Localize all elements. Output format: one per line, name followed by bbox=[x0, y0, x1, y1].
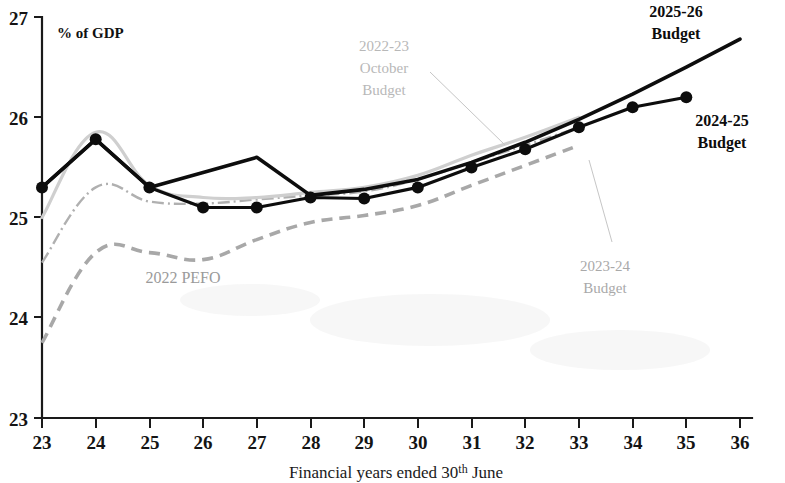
y-tick-label: 25 bbox=[9, 208, 28, 229]
annotation-line-2: October bbox=[360, 60, 408, 76]
x-tick-label: 23 bbox=[33, 432, 52, 453]
data-point-marker bbox=[412, 181, 424, 193]
y-tick-label: 27 bbox=[9, 8, 29, 29]
x-tick-label: 32 bbox=[516, 432, 535, 453]
annotation-line-1: 2022-23 bbox=[359, 38, 409, 54]
annotation-2022-pefo: 2022 PEFO bbox=[145, 269, 220, 286]
data-point-marker bbox=[573, 121, 585, 133]
annotation-line-2: Budget bbox=[652, 25, 702, 43]
x-axis-title-superscript: th bbox=[458, 462, 467, 476]
data-point-marker bbox=[36, 181, 48, 193]
annotation-2024-25-budget: 2024-25 Budget bbox=[695, 112, 748, 152]
x-tick-label: 36 bbox=[731, 432, 750, 453]
annotation-line-1: 2025-26 bbox=[649, 3, 702, 20]
unit-label: % of GDP bbox=[57, 25, 124, 41]
x-tick-label: 24 bbox=[87, 432, 107, 453]
annotation-line-1: 2022 PEFO bbox=[145, 269, 220, 286]
annotation-leaders bbox=[430, 72, 612, 242]
annotation-2025-26-budget: 2025-26 Budget bbox=[649, 3, 702, 43]
data-point-marker bbox=[305, 192, 317, 204]
data-point-marker bbox=[90, 133, 102, 145]
annotation-line-3: Budget bbox=[362, 82, 406, 98]
x-axis-ticks bbox=[42, 418, 740, 428]
scan-artifacts bbox=[180, 284, 710, 370]
x-tick-label: 34 bbox=[624, 432, 644, 453]
annotation-line-1: 2024-25 bbox=[695, 112, 748, 129]
line-chart-svg: 27 26 25 24 23 23 24 25 26 27 28 29 30 3… bbox=[0, 0, 785, 483]
x-tick-label: 26 bbox=[194, 432, 213, 453]
annotation-line-2: Budget bbox=[698, 134, 748, 152]
data-point-marker bbox=[143, 181, 155, 193]
annotation-line-2: Budget bbox=[583, 280, 627, 296]
x-axis-title: Financial years ended 30th June bbox=[289, 462, 503, 482]
x-axis-title-main: Financial years ended 30 bbox=[289, 463, 458, 482]
annotation-2023-24-budget: 2023-24 Budget bbox=[580, 258, 630, 296]
data-point-marker bbox=[519, 143, 531, 155]
x-tick-label: 29 bbox=[355, 432, 374, 453]
x-tick-label: 35 bbox=[677, 432, 696, 453]
data-point-marker bbox=[251, 202, 263, 214]
y-axis-tick-labels: 27 26 25 24 23 bbox=[9, 8, 29, 430]
data-point-marker bbox=[627, 101, 639, 113]
y-tick-label: 26 bbox=[9, 108, 28, 129]
x-tick-label: 25 bbox=[141, 432, 160, 453]
x-tick-label: 33 bbox=[570, 432, 589, 453]
data-point-marker bbox=[197, 202, 209, 214]
data-point-marker bbox=[680, 91, 692, 103]
annotation-line-1: 2023-24 bbox=[580, 258, 630, 274]
chart-container: 27 26 25 24 23 23 24 25 26 27 28 29 30 3… bbox=[0, 0, 785, 483]
x-tick-label: 28 bbox=[302, 432, 321, 453]
leader-line-2022-23-october-budget bbox=[430, 72, 505, 145]
annotation-2022-23-october-budget: 2022-23 October Budget bbox=[359, 38, 409, 98]
x-axis-tick-labels: 23 24 25 26 27 28 29 30 31 32 33 34 35 3… bbox=[33, 432, 750, 453]
y-tick-label: 23 bbox=[9, 409, 28, 430]
data-point-marker bbox=[466, 161, 478, 173]
x-tick-label: 31 bbox=[463, 432, 482, 453]
x-tick-label: 30 bbox=[409, 432, 428, 453]
y-tick-label: 24 bbox=[9, 308, 29, 329]
data-point-marker bbox=[358, 193, 370, 205]
leader-line-2023-24-budget bbox=[589, 160, 612, 242]
x-tick-label: 27 bbox=[248, 432, 268, 453]
